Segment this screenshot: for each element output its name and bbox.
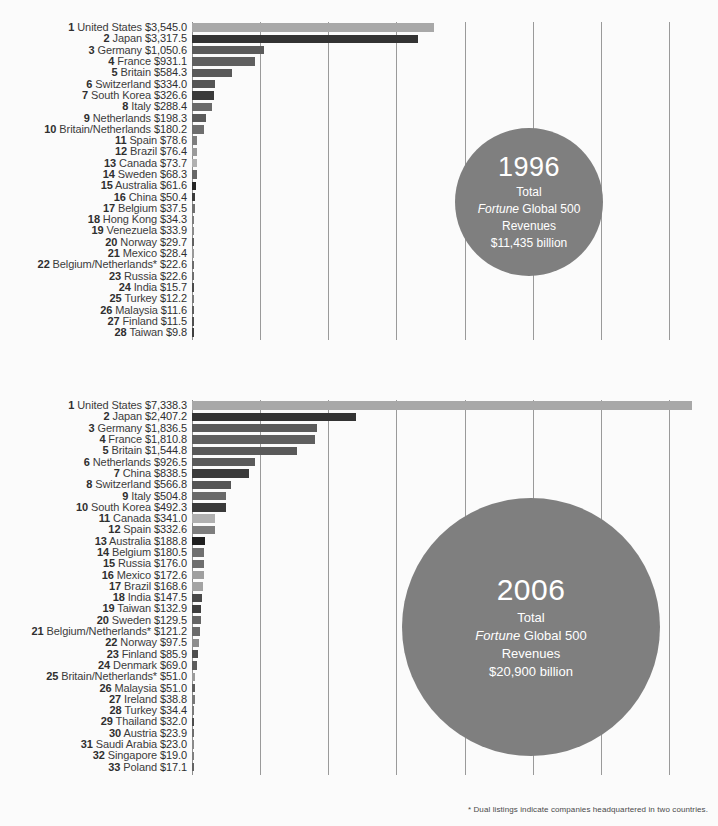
bar-rank: 11 xyxy=(99,512,110,524)
bar-value-label: $132.9 xyxy=(154,602,187,614)
bar-track xyxy=(192,23,718,31)
bar xyxy=(192,571,204,579)
bar-rank: 24 xyxy=(119,281,131,293)
bar xyxy=(192,740,194,748)
bar-track xyxy=(192,159,718,167)
circle-fortune-rest-1996: Global 500 xyxy=(519,202,580,216)
bar xyxy=(192,616,201,624)
bar-track xyxy=(192,435,718,443)
bar-track xyxy=(192,46,718,54)
bar-country: Taiwan xyxy=(127,326,166,338)
bar-value-label: $188.8 xyxy=(154,535,187,547)
bar-value-label: $926.5 xyxy=(154,456,187,468)
bar-track xyxy=(192,283,718,291)
bar-country: Denmark xyxy=(110,659,160,671)
bar-value-label: $73.7 xyxy=(160,157,187,169)
bar-track xyxy=(192,249,718,257)
bar-country: Hong Kong xyxy=(100,213,160,225)
bar-rank: 16 xyxy=(102,569,114,581)
bar-rank: 21 xyxy=(108,247,120,259)
bar xyxy=(192,261,194,269)
bar-country: South Korea xyxy=(88,89,154,101)
bar-country: Germany xyxy=(95,44,145,56)
bar-country: Brazil xyxy=(127,145,160,157)
bar-value-label: $34.4 xyxy=(160,704,187,716)
bar-rank: 27 xyxy=(107,315,119,327)
bar-country: Britain xyxy=(118,66,154,78)
bar-value-label: $121.2 xyxy=(154,625,187,637)
bar-rank: 11 xyxy=(115,134,126,146)
bar xyxy=(192,718,194,726)
bar-value-label: $34.3 xyxy=(160,213,187,225)
bar-value-label: $85.9 xyxy=(160,648,187,660)
bar-country: Mexico xyxy=(120,247,160,259)
bar xyxy=(192,627,200,635)
bar-track xyxy=(192,57,718,65)
bar xyxy=(192,216,194,224)
bar-value-label: $97.5 xyxy=(160,636,187,648)
bar-country: Belgium/Netherlands* xyxy=(44,625,154,637)
bar xyxy=(192,46,264,54)
bar-value-label: $584.3 xyxy=(154,66,187,78)
bar-rank: 28 xyxy=(110,704,122,716)
bar-rank: 27 xyxy=(109,693,121,705)
bar-country: Thailand xyxy=(113,715,160,727)
bar-rank: 25 xyxy=(110,292,122,304)
bar-value-label: $288.4 xyxy=(154,100,187,112)
summary-circle-1996: 1996 Total Fortune Global 500 Revenues $… xyxy=(455,128,603,276)
bar xyxy=(192,729,194,737)
bar-country: Poland xyxy=(120,761,160,773)
bar xyxy=(192,492,226,500)
bar-country: South Korea xyxy=(88,501,154,513)
bar xyxy=(192,249,194,257)
circle-line-total-2006: Total xyxy=(517,609,544,627)
bar-rank: 19 xyxy=(92,224,104,236)
bar xyxy=(192,706,194,714)
bar-value-label: $341.0 xyxy=(154,512,187,524)
bar xyxy=(192,413,356,421)
bar-country: Britain xyxy=(109,444,145,456)
bar xyxy=(192,661,197,669)
bar-label: 28 Taiwan $9.8 xyxy=(0,327,192,338)
bar-country: Australia xyxy=(113,179,160,191)
bar-rank: 12 xyxy=(108,523,120,535)
bar-country: Netherlands xyxy=(90,112,154,124)
bar xyxy=(192,193,195,201)
bar xyxy=(192,605,201,613)
bar xyxy=(192,317,194,325)
bar-country: India xyxy=(125,591,154,603)
bar xyxy=(192,295,194,303)
bar-value-label: $198.3 xyxy=(154,112,187,124)
bar-country: Turkey xyxy=(122,292,160,304)
bar-track xyxy=(192,103,718,111)
bar-rank: 17 xyxy=(109,580,121,592)
bar-country: Norway xyxy=(117,236,160,248)
bar-track xyxy=(192,227,718,235)
bar-row: 28 Taiwan $9.8 xyxy=(0,327,718,338)
bar-rank: 24 xyxy=(98,659,110,671)
bar xyxy=(192,204,195,212)
bar-value-label: $3,317.5 xyxy=(145,32,187,44)
bar xyxy=(192,148,197,156)
footnote: * Dual listings indicate companies headq… xyxy=(468,805,708,814)
bar-value-label: $37.5 xyxy=(160,202,187,214)
bar-country: China xyxy=(120,467,154,479)
bar-country: Saudi Arabia xyxy=(93,738,160,750)
bar-rank: 29 xyxy=(101,715,113,727)
bar-track xyxy=(192,317,718,325)
bar-value-label: $23.9 xyxy=(160,727,187,739)
bar-track xyxy=(192,328,718,336)
bar-rank: 15 xyxy=(101,179,113,191)
bar-country: Sweden xyxy=(115,168,160,180)
bar-value-label: $19.0 xyxy=(160,749,187,761)
bar-track xyxy=(192,35,718,43)
bar xyxy=(192,57,255,65)
bar xyxy=(192,91,214,99)
bar-country: Austria xyxy=(121,727,160,739)
bar-value-label: $61.6 xyxy=(160,179,187,191)
bar-rows-1996: 1 United States $3,545.02 Japan $3,317.5… xyxy=(0,22,718,338)
bar xyxy=(192,283,194,291)
bar xyxy=(192,548,204,556)
bar-track xyxy=(192,295,718,303)
bar-value-label: $838.5 xyxy=(154,467,187,479)
